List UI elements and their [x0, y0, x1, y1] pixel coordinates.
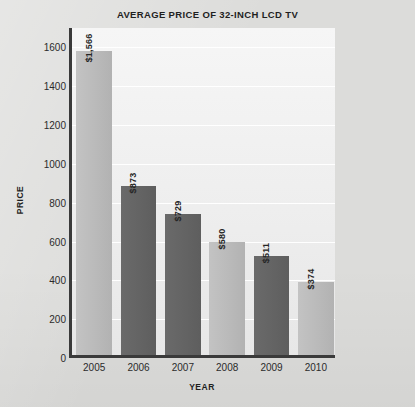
- y-axis-tick-label: 1200: [44, 120, 66, 131]
- plot-area: $1,566$873$729$580$511$374: [72, 28, 335, 355]
- bar-value-label: $374: [306, 269, 316, 290]
- y-axis-label: PRICE: [15, 186, 25, 214]
- bar-2009[interactable]: $511: [254, 256, 289, 355]
- x-axis-tick-label: 2008: [216, 362, 238, 373]
- x-axis-tick-label: 2007: [172, 362, 194, 373]
- bar-2008[interactable]: $580: [209, 242, 244, 355]
- x-axis-tick-label: 2005: [83, 362, 105, 373]
- x-axis-tick-label: 2006: [127, 362, 149, 373]
- y-axis-tick-label: 1000: [44, 158, 66, 169]
- x-axis-tick-label: 2009: [260, 362, 282, 373]
- bar-value-label: $873: [128, 172, 138, 193]
- y-axis-tick-label: 0: [60, 353, 66, 364]
- y-axis-tick-label: 1600: [44, 42, 66, 53]
- bar-2006[interactable]: $873: [121, 186, 156, 355]
- bar-2007[interactable]: $729: [165, 214, 200, 356]
- x-axis-label: YEAR: [69, 382, 335, 392]
- bar-value-label: $580: [217, 229, 227, 250]
- y-axis-tick-label: 400: [49, 275, 66, 286]
- y-axis-tick-label: 1400: [44, 81, 66, 92]
- bar-value-label: $729: [173, 200, 183, 221]
- bar-chart: AVERAGE PRICE OF 32-INCH LCD TV PRICE YE…: [0, 0, 415, 407]
- bar-2010[interactable]: $374: [298, 282, 333, 355]
- gridline: [72, 47, 335, 48]
- y-axis-tick-label: 200: [49, 314, 66, 325]
- bar-2005[interactable]: $1,566: [76, 51, 111, 355]
- y-axis-tick-label: 600: [49, 236, 66, 247]
- y-axis-tick-label: 800: [49, 197, 66, 208]
- plot-frame: $1,566$873$729$580$511$374 0200400600800…: [69, 28, 335, 358]
- x-axis-tick-label: 2010: [305, 362, 327, 373]
- bar-value-label: $511: [261, 243, 271, 263]
- chart-title: AVERAGE PRICE OF 32-INCH LCD TV: [0, 9, 415, 20]
- bar-value-label: $1,566: [84, 34, 94, 63]
